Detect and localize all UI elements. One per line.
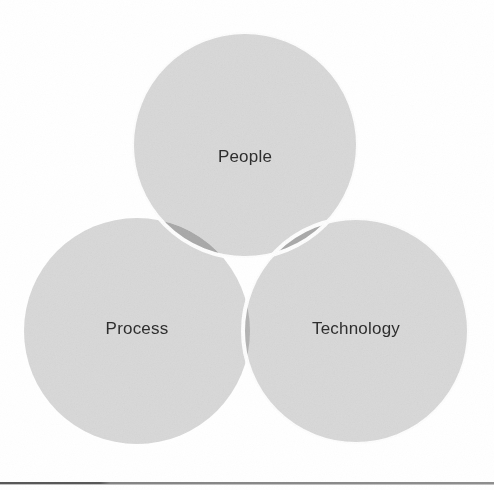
venn-diagram-canvas: People Process Technology <box>0 0 494 490</box>
venn-diagram: People Process Technology <box>0 0 494 490</box>
venn-label-people: People <box>218 147 272 166</box>
venn-label-process: Process <box>106 319 169 338</box>
venn-label-technology: Technology <box>312 319 400 338</box>
footer-rule-shadow <box>0 484 494 485</box>
venn-grain-overlay <box>24 32 469 444</box>
